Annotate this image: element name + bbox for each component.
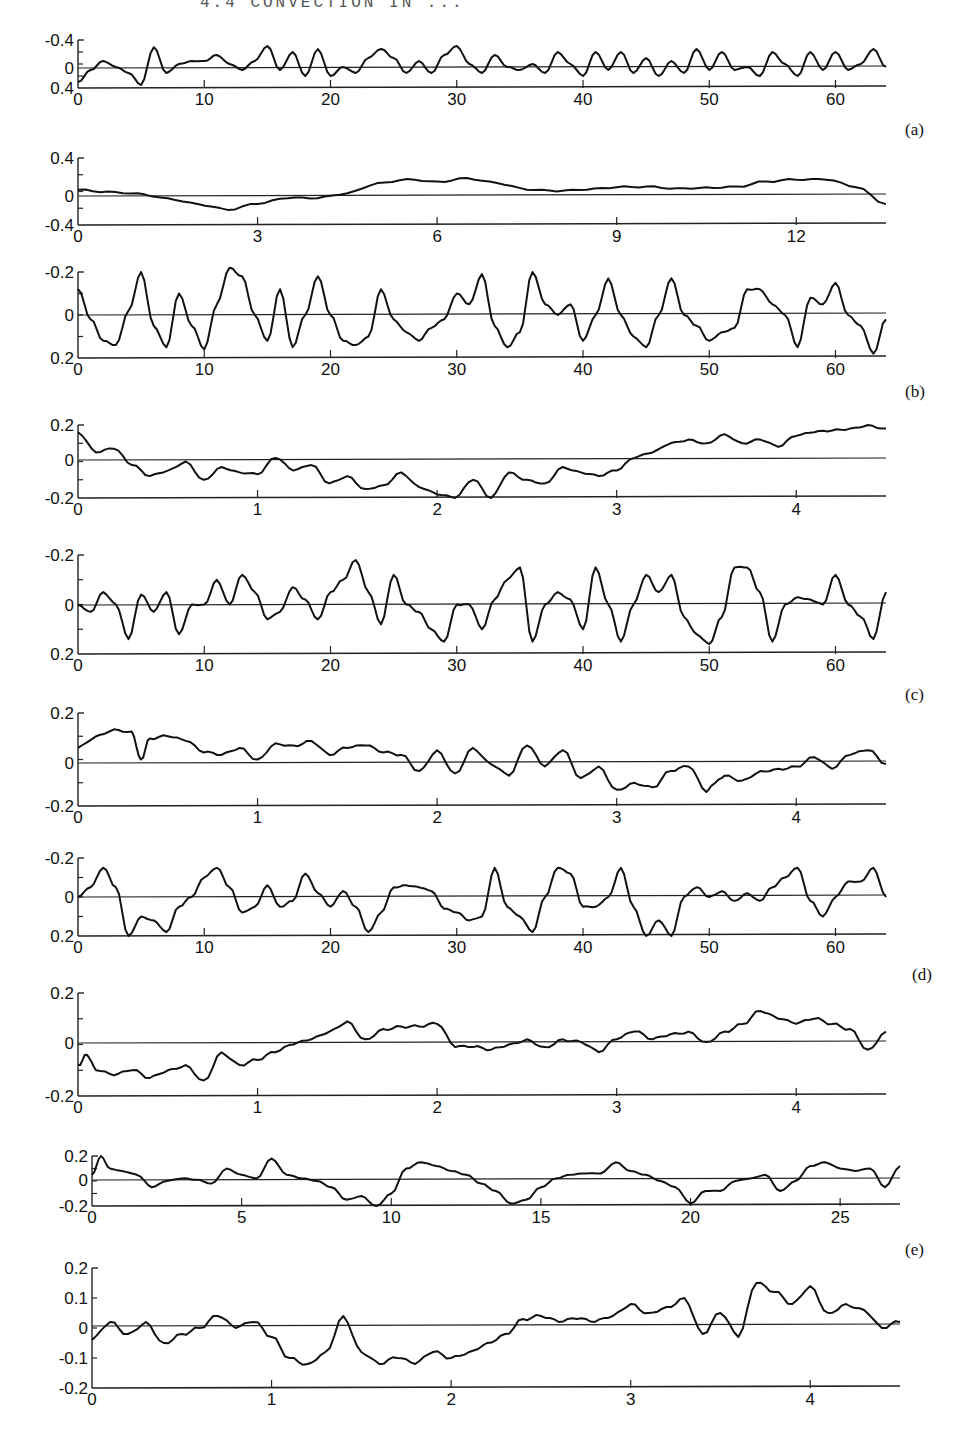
zero-line <box>92 1324 900 1326</box>
x-axis <box>92 1386 900 1388</box>
panel-label: (d) <box>912 965 932 985</box>
x-tick-label: 1 <box>267 1390 276 1409</box>
x-tick-label: 3 <box>626 1390 635 1409</box>
y-tick-label: -0.2 <box>59 1379 88 1398</box>
x-tick-label: 2 <box>446 1390 455 1409</box>
chart-panel-e2: 012340.20.10-0.1-0.2 <box>0 0 970 1438</box>
panel-label: (b) <box>905 382 925 402</box>
y-tick-label: -0.1 <box>59 1349 88 1368</box>
x-tick-label: 0 <box>87 1390 96 1409</box>
y-tick-label: 0.1 <box>64 1289 88 1308</box>
panel-label: (c) <box>905 685 924 705</box>
panel-label: (e) <box>905 1240 924 1260</box>
y-tick-label: 0 <box>79 1319 88 1338</box>
x-tick-label: 4 <box>805 1390 814 1409</box>
y-tick-label: 0.2 <box>64 1259 88 1278</box>
panel-label: (a) <box>905 120 924 140</box>
